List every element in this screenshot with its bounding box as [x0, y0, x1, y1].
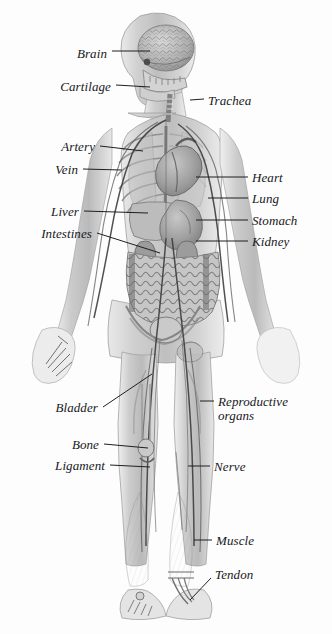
label-brain: Brain	[77, 47, 107, 61]
label-lung: Lung	[252, 192, 279, 206]
label-stomach: Stomach	[252, 214, 297, 228]
label-intestines: Intestines	[41, 227, 92, 241]
reproductive-organs	[177, 342, 203, 362]
label-bone: Bone	[72, 438, 99, 452]
label-nerve: Nerve	[214, 460, 246, 474]
label-heart: Heart	[252, 171, 283, 185]
label-vein: Vein	[55, 163, 78, 177]
label-artery: Artery	[61, 140, 95, 154]
label-bladder: Bladder	[55, 401, 98, 415]
label-kidney: Kidney	[252, 235, 289, 249]
label-muscle: Muscle	[216, 534, 254, 548]
label-tendon: Tendon	[215, 568, 253, 582]
label-trachea: Trachea	[208, 94, 251, 108]
anatomy-illustration	[0, 0, 332, 634]
label-ligament: Ligament	[55, 459, 105, 473]
anatomy-figure: BrainCartilageTracheaArteryVeinHeartLung…	[0, 0, 332, 634]
label-liver: Liver	[51, 205, 79, 219]
label-cartilage: Cartilage	[60, 80, 111, 94]
intestines	[126, 252, 220, 326]
label-reproductive: Reproductive organs	[218, 395, 314, 423]
